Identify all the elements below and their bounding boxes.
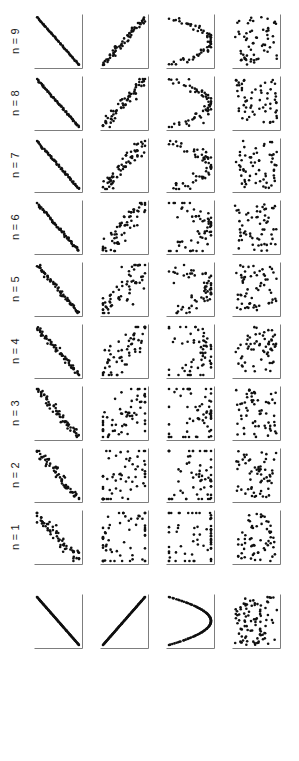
scatter-panel-random-scatter-n1	[232, 510, 284, 568]
panel-row: n = 4	[0, 324, 299, 382]
point-cloud	[168, 450, 213, 501]
panel-axes	[233, 449, 281, 503]
panel-row: n = 1	[0, 510, 299, 568]
panel-row: n = 5	[0, 262, 299, 320]
point-cloud	[168, 264, 213, 315]
scatter-panel-increasing-linear-n5	[100, 262, 152, 320]
point-cloud	[235, 79, 278, 124]
scatter-panel-figure: n = 9n = 8n = 7n = 6n = 5n = 4n = 3n = 2…	[0, 0, 299, 761]
scatter-panel-decreasing-linear-n0	[34, 594, 86, 652]
point-cloud	[235, 389, 278, 439]
row-label-n-9: n = 9	[9, 26, 21, 56]
scatter-panel-increasing-linear-n3	[100, 386, 152, 444]
scatter-panel-random-scatter-n0	[232, 594, 284, 652]
point-cloud	[36, 450, 81, 501]
point-cloud	[168, 326, 213, 377]
scatter-panel-random-scatter-n5	[232, 262, 284, 320]
scatter-panel-sideways-parabola-n4	[166, 324, 218, 382]
point-cloud	[36, 512, 81, 563]
scatter-panel-sideways-parabola-n1	[166, 510, 218, 568]
scatter-panel-increasing-linear-n4	[100, 324, 152, 382]
point-cloud	[168, 78, 213, 128]
scatter-panel-decreasing-linear-n6	[34, 200, 86, 258]
panel-axes	[233, 387, 281, 441]
point-cloud	[234, 596, 278, 646]
scatter-panel-increasing-linear-n6	[100, 200, 152, 258]
panel-row	[0, 594, 299, 652]
point-cloud	[102, 202, 147, 253]
point-cloud	[235, 264, 278, 311]
point-cloud	[168, 17, 213, 66]
point-cloud	[102, 78, 147, 129]
point-cloud	[235, 140, 278, 189]
point-cloud	[102, 450, 147, 501]
panel-row: n = 8	[0, 76, 299, 134]
scatter-panel-sideways-parabola-n7	[166, 138, 218, 196]
point-cloud	[102, 140, 147, 191]
panel-axes	[101, 325, 149, 379]
panel-axes	[167, 511, 215, 565]
panel-axes	[101, 387, 149, 441]
scatter-panel-increasing-linear-n9	[100, 14, 152, 72]
point-cloud	[36, 202, 80, 252]
point-cloud	[102, 264, 147, 315]
point-cloud	[36, 326, 80, 376]
scatter-panel-increasing-linear-n2	[100, 448, 152, 506]
scatter-panel-random-scatter-n7	[232, 138, 284, 196]
scatter-panel-increasing-linear-n8	[100, 76, 152, 134]
scatter-panel-decreasing-linear-n4	[34, 324, 86, 382]
panel-axes	[167, 595, 215, 649]
scatter-panel-sideways-parabola-n3	[166, 386, 218, 444]
point-cloud	[168, 388, 213, 439]
panel-row: n = 7	[0, 138, 299, 196]
scatter-panel-decreasing-linear-n3	[34, 386, 86, 444]
point-cloud	[234, 203, 278, 252]
row-label-n-5: n = 5	[9, 274, 21, 304]
point-cloud	[36, 596, 80, 646]
point-cloud	[234, 326, 277, 373]
point-cloud	[235, 450, 277, 498]
scatter-panel-sideways-parabola-n0	[166, 594, 218, 652]
scatter-panel-decreasing-linear-n8	[34, 76, 86, 134]
scatter-panel-decreasing-linear-n2	[34, 448, 86, 506]
row-label-n-8: n = 8	[9, 88, 21, 118]
point-cloud	[36, 140, 81, 190]
scatter-panel-random-scatter-n8	[232, 76, 284, 134]
row-label-n-1: n = 1	[9, 522, 21, 552]
panel-axes	[233, 325, 281, 379]
scatter-panel-increasing-linear-n1	[100, 510, 152, 568]
scatter-panel-random-scatter-n2	[232, 448, 284, 506]
point-cloud	[168, 140, 213, 191]
scatter-panel-decreasing-linear-n1	[34, 510, 86, 568]
row-label-n-7: n = 7	[9, 150, 21, 180]
scatter-panel-random-scatter-n3	[232, 386, 284, 444]
row-label-n-6: n = 6	[9, 212, 21, 242]
scatter-panel-sideways-parabola-n6	[166, 200, 218, 258]
point-cloud	[168, 202, 213, 253]
point-cloud	[237, 513, 276, 563]
scatter-panel-sideways-parabola-n9	[166, 14, 218, 72]
point-cloud	[168, 596, 213, 647]
panel-row: n = 2	[0, 448, 299, 506]
point-cloud	[36, 388, 80, 439]
panel-axes	[101, 77, 149, 131]
point-cloud	[36, 264, 80, 314]
panel-row: n = 3	[0, 386, 299, 444]
panel-axes	[101, 201, 149, 255]
panel-row: n = 9	[0, 14, 299, 72]
panel-axes	[167, 139, 215, 193]
row-label-n-4: n = 4	[9, 336, 21, 366]
scatter-panel-random-scatter-n4	[232, 324, 284, 382]
point-cloud	[168, 512, 213, 563]
point-cloud	[234, 16, 278, 66]
point-cloud	[102, 512, 147, 563]
point-cloud	[102, 596, 147, 647]
point-cloud	[36, 16, 80, 66]
scatter-panel-increasing-linear-n0	[100, 594, 152, 652]
panel-row: n = 6	[0, 200, 299, 258]
scatter-panel-sideways-parabola-n2	[166, 448, 218, 506]
point-cloud	[102, 388, 147, 439]
scatter-panel-decreasing-linear-n7	[34, 138, 86, 196]
scatter-panel-sideways-parabola-n8	[166, 76, 218, 134]
scatter-panel-increasing-linear-n7	[100, 138, 152, 196]
